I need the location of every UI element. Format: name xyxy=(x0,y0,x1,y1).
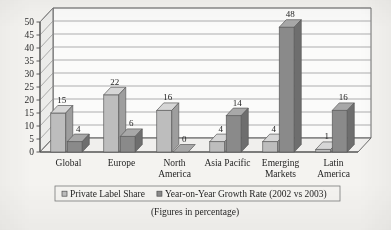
legend-item-label: Private Label Share xyxy=(70,189,145,199)
bar-front-face xyxy=(157,110,172,152)
y-axis-tick-label: 35 xyxy=(25,56,35,66)
x-axis-category-label: North xyxy=(163,158,185,168)
bar-side-face xyxy=(241,108,248,152)
bar-value-label: 15 xyxy=(57,95,67,105)
y-axis-tick-label: 30 xyxy=(25,69,35,79)
x-axis-category-label: Markets xyxy=(265,169,296,179)
bar-growth-rate xyxy=(332,103,354,152)
bar-value-label: 14 xyxy=(233,98,243,108)
x-axis-category-label: Asia Pacific xyxy=(204,158,250,168)
y-axis-tick-label: 20 xyxy=(25,95,35,105)
y-axis-tick-label: 45 xyxy=(25,30,35,40)
bar-value-label: 4 xyxy=(272,124,277,134)
bar-front-face xyxy=(120,136,135,152)
x-axis-category-label: Latin xyxy=(323,158,343,168)
x-axis-category-label: Europe xyxy=(108,158,135,168)
bar-growth-rate xyxy=(279,20,301,152)
x-axis-category-label: America xyxy=(317,169,350,179)
bar-side-face xyxy=(347,103,354,152)
bar-front-face xyxy=(226,116,241,152)
bar-value-label: 0 xyxy=(182,134,187,144)
bar-front-face xyxy=(51,113,66,152)
bar-value-label: 1 xyxy=(325,131,330,141)
y-axis-tick-label: 50 xyxy=(25,17,35,27)
bar-front-face xyxy=(104,95,119,152)
bar-side-face xyxy=(294,20,301,152)
y-axis-tick-label: 5 xyxy=(29,134,34,144)
y-axis-tick-label: 10 xyxy=(25,121,35,131)
bar-growth-rate xyxy=(120,129,142,152)
bar-front-face xyxy=(67,142,82,152)
bar-private-label-share xyxy=(157,103,179,152)
y-axis-tick-label: 0 xyxy=(29,147,34,157)
bar-value-label: 16 xyxy=(339,92,349,102)
dark-swatch-icon xyxy=(157,191,162,196)
bar-value-label: 48 xyxy=(286,9,296,19)
chart-container: 05101520253035404550154Global226Europe16… xyxy=(0,0,391,230)
bar-value-label: 6 xyxy=(129,118,134,128)
y-axis-tick-label: 40 xyxy=(25,43,35,53)
bar-front-face xyxy=(316,149,331,152)
x-axis-category-label: Emerging xyxy=(262,158,300,168)
bar-front-face xyxy=(263,142,278,152)
bar-chart: 05101520253035404550154Global226Europe16… xyxy=(0,0,391,230)
bar-value-label: 22 xyxy=(110,77,119,87)
y-axis-tick-label: 25 xyxy=(25,82,35,92)
bar-growth-rate xyxy=(226,108,248,152)
legend-item-label: Year-on-Year Growth Rate (2002 vs 2003) xyxy=(165,189,327,200)
bar-front-face xyxy=(332,110,347,152)
bar-front-face xyxy=(210,142,225,152)
bar-side-face xyxy=(172,103,179,152)
y-axis-tick-label: 15 xyxy=(25,108,35,118)
x-axis-category-label: Global xyxy=(56,158,82,168)
bar-value-label: 4 xyxy=(76,124,81,134)
bar-value-label: 4 xyxy=(219,124,224,134)
chart-caption: (Figures in percentage) xyxy=(151,207,239,218)
x-axis-category-label: America xyxy=(158,169,191,179)
bar-front-face xyxy=(279,27,294,152)
light-swatch-icon xyxy=(62,191,67,196)
bar-value-label: 16 xyxy=(163,92,173,102)
